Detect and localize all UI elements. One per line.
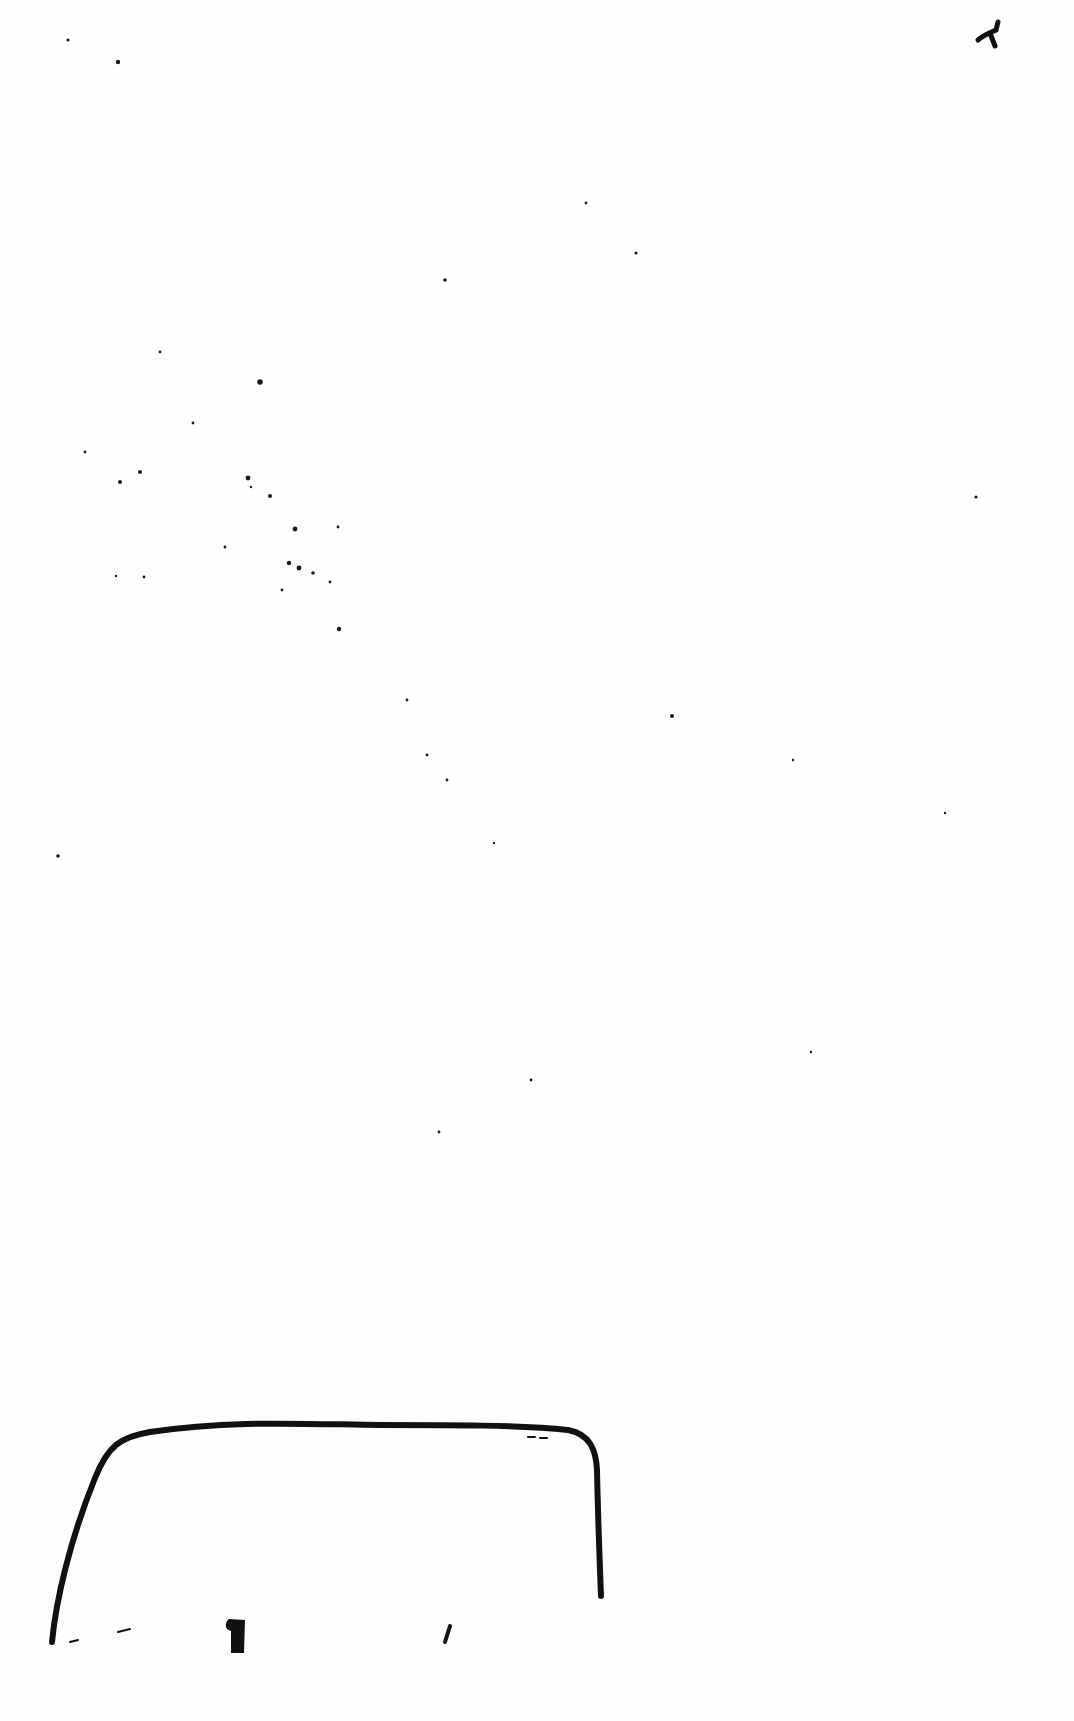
box-inner-stroke [445,1626,450,1642]
scan-noise-speck [138,470,142,474]
scanned-page: hand-drawn rounded rectangle outline, bo… [0,0,1074,1721]
scan-noise-speck [224,546,227,549]
scan-noise-speck [311,571,315,575]
scan-noise-speck [297,566,302,571]
scan-noise-speck [192,422,195,425]
scan-noise-speck [143,576,146,579]
scan-noise-speck [118,480,122,484]
box-top-dashes [528,1437,547,1438]
scan-noise-speck [115,575,117,577]
scan-noise-speck [443,278,447,282]
page-canvas [0,0,1074,1721]
box-inner-ink-blob [226,1619,245,1653]
scan-noise-speck [406,699,409,702]
scan-noise-speck [281,589,284,592]
scan-noise-speck [634,251,637,254]
scan-noise-speck [329,581,332,584]
scan-noise-speck [810,1051,812,1053]
scan-noise-speck [246,476,251,481]
hand-drawn-box-outline [52,1424,601,1642]
scan-noise-speck [530,1079,533,1082]
scan-noise-speck [493,842,495,844]
scan-noise-speck [268,494,272,498]
box-inner-stroke [118,1629,130,1632]
scan-noise-speck [56,854,60,858]
scan-noise-speck [792,759,794,761]
ink-blob [226,1619,245,1653]
scan-noise-speck [585,202,588,205]
scan-noise-speck [974,495,977,498]
scan-noise-speck [337,526,340,529]
scan-noise-speck [944,812,946,814]
scan-noise-speck [66,38,69,41]
scan-noise-speck [438,1131,441,1134]
scan-noise-speck [84,451,87,454]
scan-noise-speck [670,714,674,718]
scan-noise-speck [293,527,298,532]
scan-noise-speck [250,486,252,488]
scan-noise-speck [287,561,291,565]
scan-noise-speck [426,754,429,757]
speck-layer [56,38,977,1133]
box-inner-stroke [70,1640,78,1642]
handwritten-tick-mark [978,22,998,46]
scan-noise-speck [257,379,263,385]
scan-noise-speck [446,779,449,782]
scan-noise-speck [116,60,120,64]
scan-noise-speck [337,627,341,631]
scan-noise-speck [159,351,162,354]
